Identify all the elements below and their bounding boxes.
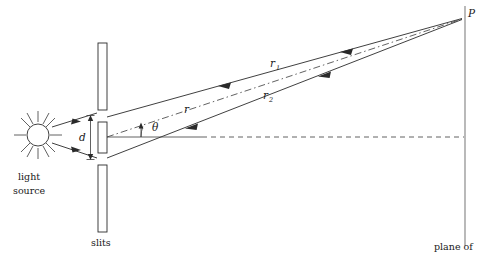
ray-r1-arrowhead-1 [218, 83, 231, 90]
ray-r-label: r [184, 103, 190, 115]
theta-tick-arrowhead [139, 123, 144, 129]
light-source-rays [14, 111, 62, 159]
point-p-label: P [467, 7, 476, 19]
theta-label: θ [152, 121, 159, 133]
ray-r1-arrowhead-2 [340, 49, 353, 56]
double-slit-figure: light source d slits [0, 0, 478, 255]
slits-label: slits [91, 237, 111, 248]
slit-bar-bottom [98, 165, 107, 232]
slit-bar-middle [98, 122, 107, 153]
slit-separation-dimension: d [79, 115, 95, 160]
ray-r-center: r [107, 19, 462, 137]
slit-separation-label: d [79, 131, 86, 143]
incident-ray-lower-arrowhead [71, 147, 81, 153]
light-source-label-line2: source [13, 185, 46, 196]
light-source-bulb-icon [27, 124, 49, 146]
ray-r2-subscript: 2 [268, 96, 273, 104]
plane-of-screen-label: plane of [434, 241, 474, 252]
slit-bar-top [98, 43, 107, 110]
ray-r1-subscript: 1 [276, 64, 280, 72]
diagram-root: light source d slits [0, 0, 478, 255]
light-source-label-line1: light [18, 171, 40, 182]
ray-r1: r 1 [107, 19, 462, 118]
